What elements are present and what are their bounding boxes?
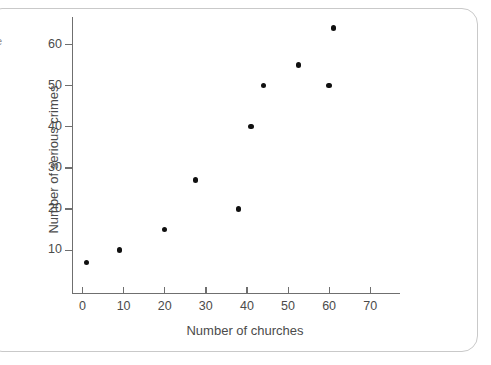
data-point [117, 247, 122, 252]
x-tick-mark [246, 287, 247, 294]
x-tick-mark [123, 287, 124, 294]
x-tick-mark [288, 287, 289, 294]
y-tick-mark [65, 126, 72, 127]
x-tick-label: 40 [234, 300, 260, 313]
data-point [84, 260, 89, 265]
x-tick-mark [164, 287, 165, 294]
x-tick-label: 60 [316, 300, 342, 313]
data-point [162, 227, 167, 232]
y-axis-title: Number of serious crimes [46, 45, 61, 275]
y-tick-mark [65, 208, 72, 209]
x-tick-label: 70 [357, 300, 383, 313]
x-tick-label: 10 [111, 300, 137, 313]
scatter-plot: 102030405060 010203040506070 Number of s… [0, 0, 491, 365]
data-point [248, 124, 253, 129]
x-tick-mark [82, 287, 83, 294]
y-axis-line [72, 17, 73, 294]
x-tick-mark [205, 287, 206, 294]
y-tick-mark [65, 44, 72, 45]
data-point [193, 177, 198, 182]
x-tick-mark [329, 287, 330, 294]
data-point [331, 25, 336, 30]
x-tick-label: 50 [275, 300, 301, 313]
y-tick-mark [65, 85, 72, 86]
data-point [261, 83, 266, 88]
data-point [296, 62, 301, 67]
figure-page: e 102030405060 010203040506070 Number of… [0, 0, 491, 365]
x-tick-label: 30 [193, 300, 219, 313]
x-tick-label: 0 [70, 300, 96, 313]
x-tick-mark [370, 287, 371, 294]
data-point [326, 83, 331, 88]
x-axis-title: Number of churches [145, 323, 345, 338]
y-tick-mark [65, 167, 72, 168]
x-axis-line [72, 293, 400, 294]
x-tick-label: 20 [152, 300, 178, 313]
data-point [236, 206, 241, 211]
y-tick-mark [65, 250, 72, 251]
